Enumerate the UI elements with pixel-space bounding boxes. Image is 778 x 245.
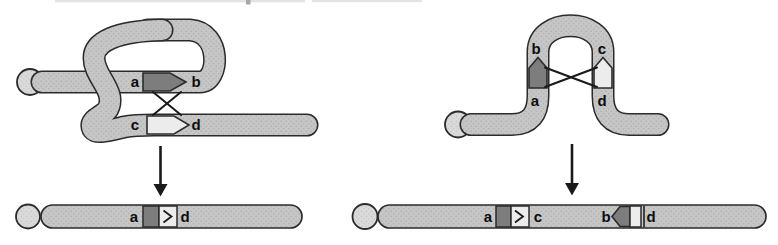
telomere-icon (16, 205, 40, 229)
repeat-block-light (511, 206, 529, 227)
inverted-repeat-recombination-diagram: b c a d a c b d (353, 26, 767, 229)
product-label-b: b (601, 208, 610, 225)
recombination-figure: a b c d a d b c (0, 0, 778, 245)
crossover-x-icon (545, 68, 597, 88)
cropped-text-remnant (55, 0, 422, 5)
cropped-text-strip (55, 0, 305, 2)
crossover-x-icon (153, 92, 181, 115)
segment-label-d: d (597, 92, 606, 109)
product-label-a: a (130, 208, 139, 225)
telomere-icon (353, 204, 378, 229)
repeat-block-light (159, 206, 177, 227)
product-label-c: c (534, 208, 542, 225)
cropped-text-strip (312, 0, 422, 2)
product-label-d: d (646, 208, 655, 225)
figure-canvas: a b c d a d b c (0, 0, 778, 245)
down-arrow-icon (154, 146, 168, 197)
cropped-text-descender (246, 0, 251, 5)
segment-label-d: d (191, 116, 200, 133)
inversion-product-chromosome: a c b d (353, 204, 767, 229)
chromosome-bar (378, 205, 766, 228)
segment-label-b: b (191, 73, 200, 90)
segment-label-b: b (531, 40, 540, 57)
segment-label-a: a (131, 73, 140, 90)
repeat-block-light (630, 206, 641, 227)
down-arrow-icon (565, 144, 579, 196)
repeat-block-dark (143, 206, 159, 227)
arrow-head (565, 183, 579, 196)
product-label-a: a (484, 208, 493, 225)
direct-repeat-recombination-diagram: a b c d a d (16, 30, 307, 229)
segment-label-a: a (531, 92, 540, 109)
product-label-d: d (180, 208, 189, 225)
repeat-block-dark (496, 206, 511, 227)
deletion-product-chromosome: a d (16, 205, 302, 229)
segment-label-c: c (598, 40, 606, 57)
arrow-head (154, 184, 168, 197)
segment-label-c: c (131, 116, 139, 133)
